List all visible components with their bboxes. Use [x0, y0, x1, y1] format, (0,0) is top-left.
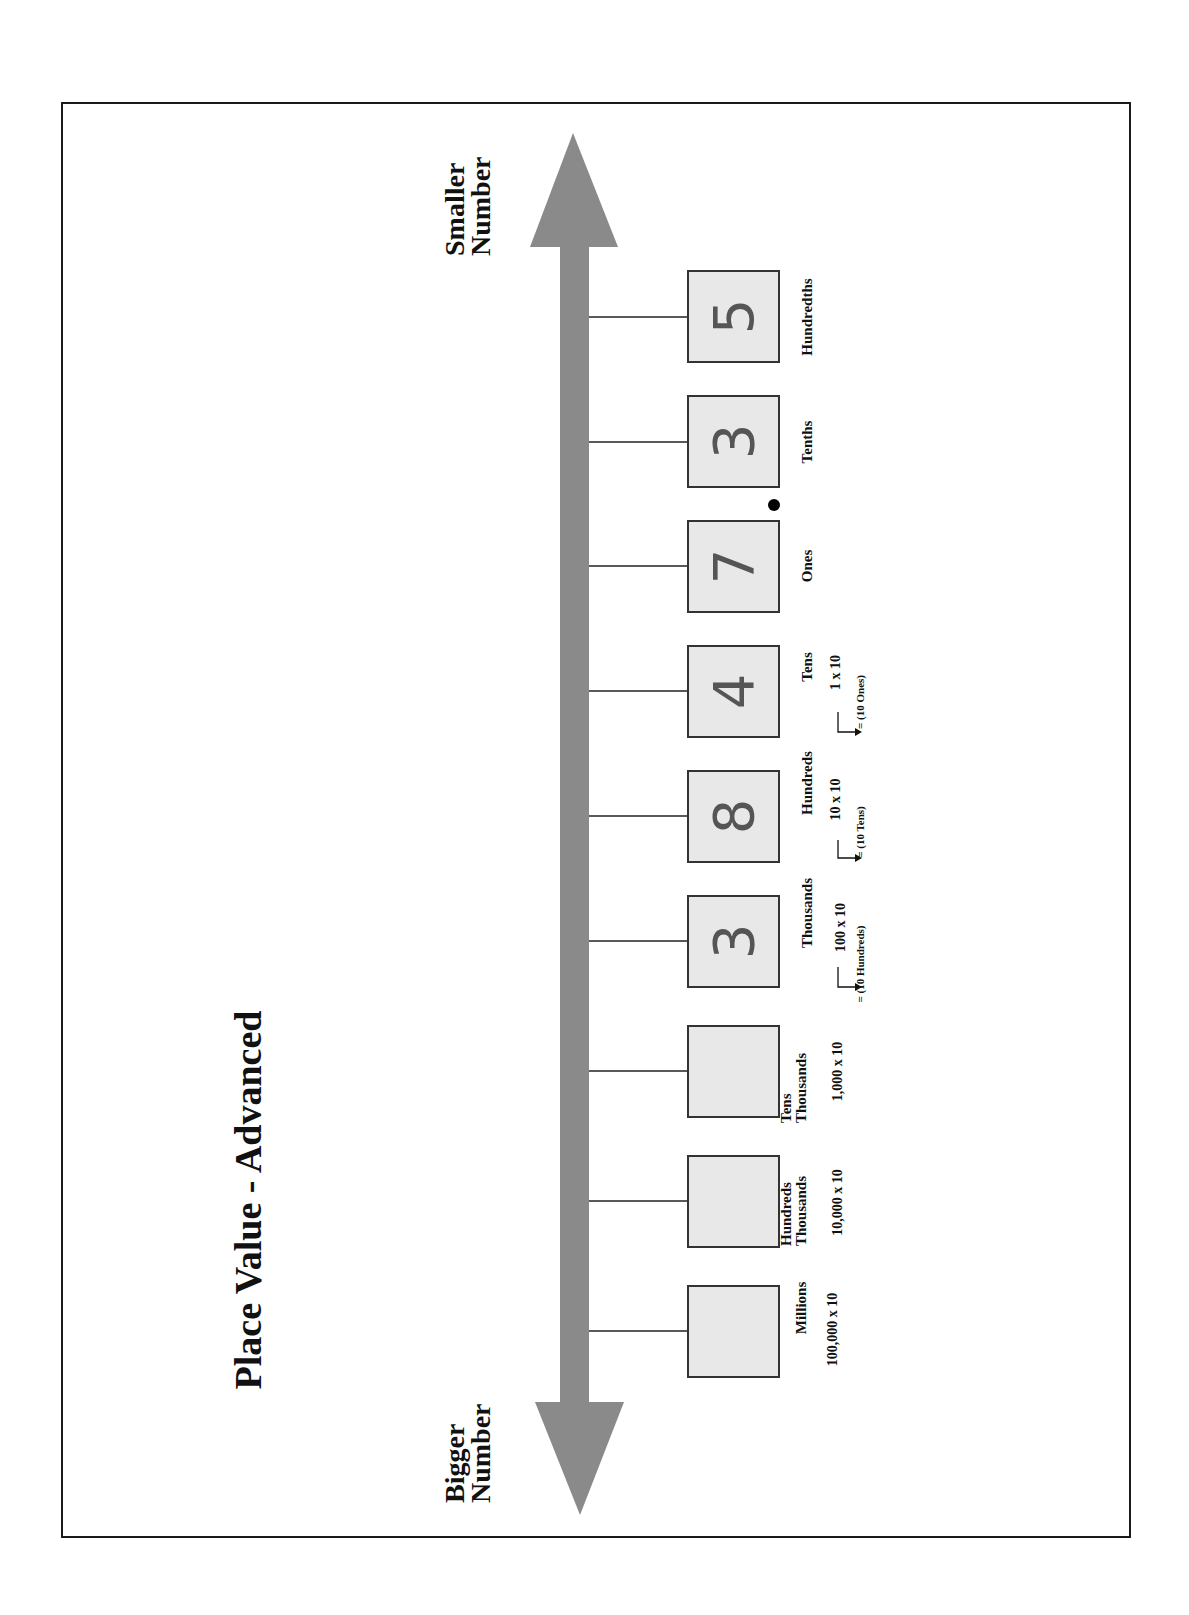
bigger-label-line2: Number — [468, 1393, 494, 1503]
label-hundred-thousands-line1: Hundreds — [779, 1136, 794, 1246]
label-millions: Millions — [794, 1258, 810, 1358]
digit-tens: 4 — [688, 646, 779, 737]
label-tenths: Tenths — [800, 392, 816, 492]
label-tens: Tens — [800, 617, 816, 717]
multiplier-hundred-thousands: 10,000 x 10 — [830, 1158, 845, 1248]
label-ones: Ones — [800, 516, 816, 616]
arrow-down-icon — [535, 1402, 624, 1515]
arrow-up-icon — [530, 133, 618, 247]
label-hundred-thousands-line2: Thousands — [794, 1136, 809, 1246]
label-thousands: Thousands — [800, 863, 816, 963]
equals-tens: = (10 Ones) — [854, 662, 866, 742]
smaller-number-label: Smaller Number — [442, 116, 498, 256]
digit-tenths: 3 — [688, 396, 779, 487]
label-hundred-thousands: Hundreds Thousands — [779, 1136, 811, 1246]
place-box-ten-thousands — [688, 1026, 779, 1117]
place-value-diagram — [0, 0, 1189, 1615]
multiplier-thousands: 100 x 10 — [833, 888, 848, 968]
label-ten-thousands: Tens Thousands — [779, 1013, 811, 1123]
equals-thousands: = (10 Hundreds) — [854, 914, 866, 1014]
equals-hundreds: = (10 Tens) — [854, 792, 866, 872]
multiplier-hundreds: 10 x 10 — [828, 765, 843, 835]
connectors — [589, 317, 688, 1331]
label-ten-thousands-line1: Tens — [779, 1013, 794, 1123]
number-line-shaft — [560, 245, 589, 1405]
digit-thousands: 3 — [688, 896, 779, 987]
multiplier-millions: 100,000 x 10 — [825, 1280, 840, 1380]
place-box-millions — [688, 1286, 779, 1377]
label-hundredths: Hundredths — [800, 267, 816, 367]
digit-ones: 7 — [688, 521, 779, 612]
digit-hundredths: 5 — [688, 271, 779, 362]
page-title: Place Value - Advanced — [226, 990, 270, 1410]
label-ten-thousands-line2: Thousands — [794, 1013, 809, 1123]
multiplier-ten-thousands: 1,000 x 10 — [830, 1027, 845, 1117]
smaller-label-line2: Number — [468, 116, 494, 256]
digit-hundreds: 8 — [688, 771, 779, 862]
decimal-point — [768, 499, 780, 511]
bigger-number-label: Bigger Number — [442, 1393, 498, 1503]
multiplier-tens: 1 x 10 — [828, 638, 843, 708]
label-hundreds: Hundreds — [800, 733, 816, 833]
place-box-hundred-thousands — [688, 1156, 779, 1247]
